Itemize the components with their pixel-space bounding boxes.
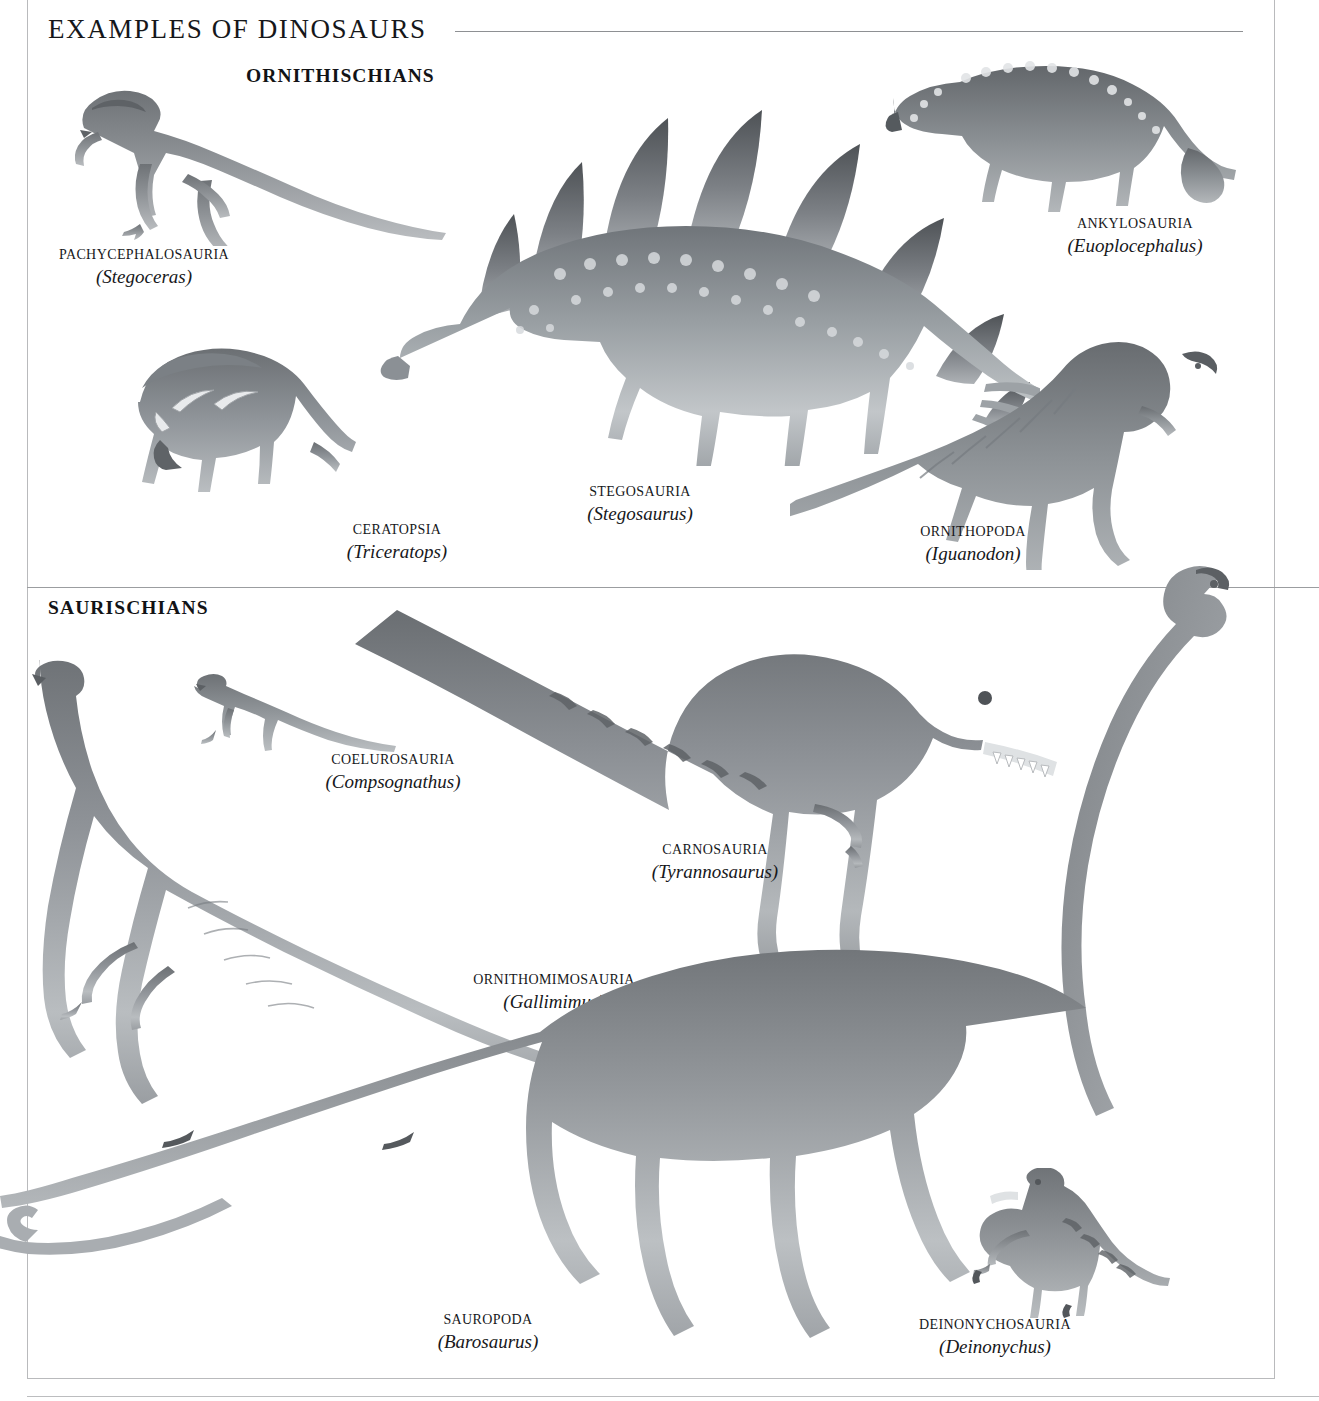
label-ankylosauria: Ankylosauria (Euoplocephalus)	[985, 210, 1285, 257]
label-group-name: Ornithopoda	[848, 518, 1098, 542]
page-border-bottom	[27, 1378, 1275, 1379]
label-group-name: Stegosauria	[505, 478, 775, 502]
label-genus-name: (Stegoceras)	[24, 266, 264, 288]
label-genus-name: (Deinonychus)	[855, 1336, 1135, 1358]
footer-rule	[27, 1396, 1319, 1397]
title-rule	[455, 31, 1243, 32]
label-group-name: Pachycephalosauria	[24, 241, 264, 265]
label-genus-name: (Barosaurus)	[368, 1331, 608, 1353]
label-sauropoda: Sauropoda (Barosaurus)	[368, 1306, 608, 1353]
dinosaur-reference-page: EXAMPLES OF DINOSAURS ORNITHISCHIANS SAU…	[0, 0, 1319, 1401]
deinonychus-illustration	[970, 1168, 1170, 1318]
euoplocephalus-illustration	[880, 42, 1260, 212]
label-genus-name: (Euoplocephalus)	[985, 235, 1285, 257]
label-group-name: Ankylosauria	[985, 210, 1285, 234]
triceratops-illustration	[118, 330, 358, 520]
label-deinonychosauria: Deinonychosauria (Deinonychus)	[855, 1311, 1135, 1358]
label-pachycephalosauria: Pachycephalosauria (Stegoceras)	[24, 241, 264, 288]
label-stegosauria: Stegosauria (Stegosaurus)	[505, 478, 775, 525]
label-group-name: Sauropoda	[368, 1306, 608, 1330]
label-ornithopoda: Ornithopoda (Iguanodon)	[848, 518, 1098, 565]
label-ceratopsia: Ceratopsia (Triceratops)	[272, 516, 522, 563]
label-group-name: Ceratopsia	[272, 516, 522, 540]
page-title: EXAMPLES OF DINOSAURS	[48, 14, 427, 45]
label-group-name: Deinonychosauria	[855, 1311, 1135, 1335]
label-genus-name: (Stegosaurus)	[505, 503, 775, 525]
